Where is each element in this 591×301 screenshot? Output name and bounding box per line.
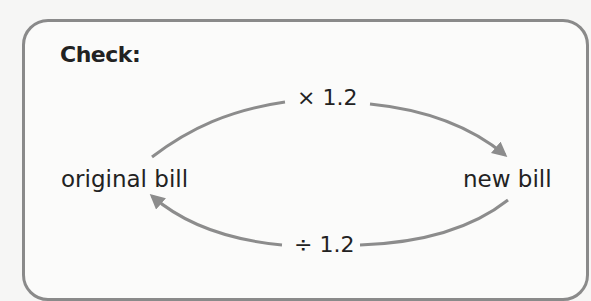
multiply-arrow-left-segment	[152, 102, 285, 157]
divide-operation-label: ÷ 1.2	[294, 232, 354, 257]
check-title: Check:	[60, 42, 140, 67]
original-bill-label: original bill	[61, 166, 188, 192]
divide-arrow-right-segment	[360, 200, 508, 245]
divide-arrow-left-segment	[152, 196, 282, 245]
multiply-operation-label: × 1.2	[297, 85, 357, 110]
new-bill-label: new bill	[463, 166, 552, 192]
multiply-arrow-right-segment	[370, 104, 505, 155]
